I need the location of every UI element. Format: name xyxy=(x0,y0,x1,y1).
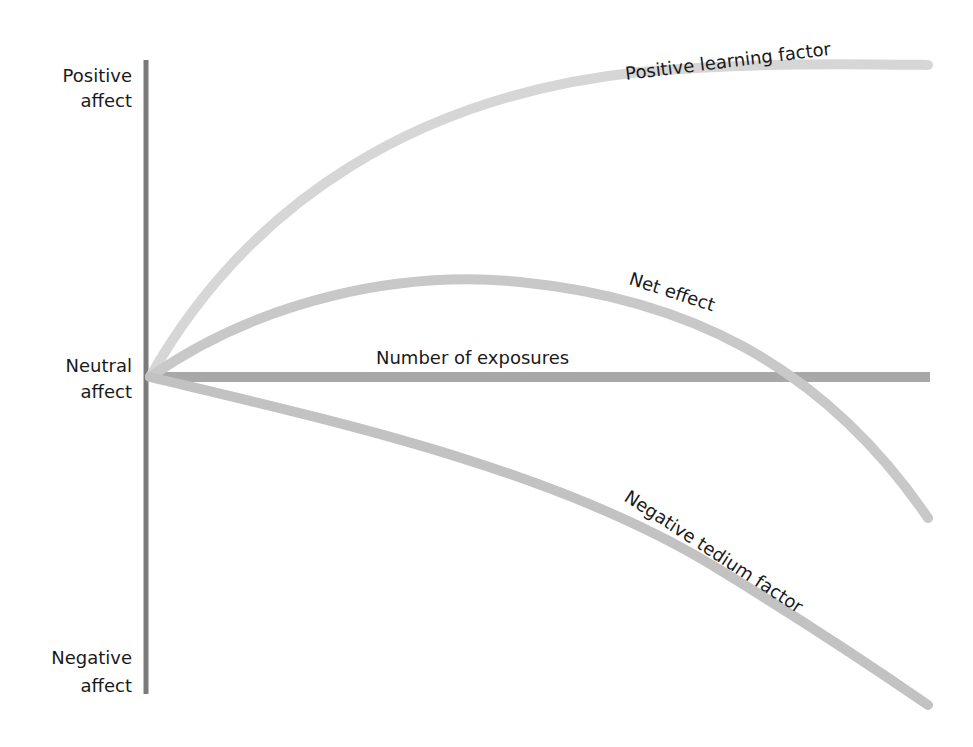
negative-tedium-label: Negative tedium factor xyxy=(621,486,808,617)
y-label-neutral-line2: affect xyxy=(81,381,132,402)
y-label-positive-line2: affect xyxy=(81,90,132,111)
y-label-neutral-line1: Neutral xyxy=(66,355,132,376)
positive-learning-curve xyxy=(150,64,928,377)
y-label-negative-line1: Negative xyxy=(51,647,132,668)
x-axis-label: Number of exposures xyxy=(376,347,569,368)
negative-tedium-curve xyxy=(150,377,928,705)
y-label-negative-line2: affect xyxy=(81,675,132,696)
positive-learning-label: Positive learning factor xyxy=(624,38,833,84)
y-label-positive-line1: Positive xyxy=(63,65,132,86)
chart-canvas: Positive learning factor Net effect Nega… xyxy=(0,0,973,747)
